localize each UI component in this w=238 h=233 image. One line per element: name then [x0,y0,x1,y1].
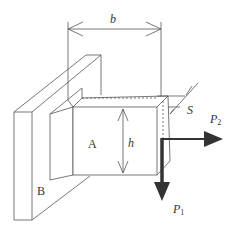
block-a [73,96,170,175]
label-a: A [88,138,97,150]
mechanical-drawing [0,0,238,233]
label-plate-b: B [37,185,45,197]
label-p1: P1 [173,203,184,219]
label-b: b [110,13,116,25]
force-p2-arrow [162,131,223,147]
label-s: S [187,104,193,116]
label-p2: P2 [210,113,221,129]
label-p1-sub: 1 [180,208,184,217]
diagram-canvas: b h S A B P2 P1 [0,0,238,233]
label-p2-sub: 2 [217,118,221,127]
label-h: h [128,137,134,149]
